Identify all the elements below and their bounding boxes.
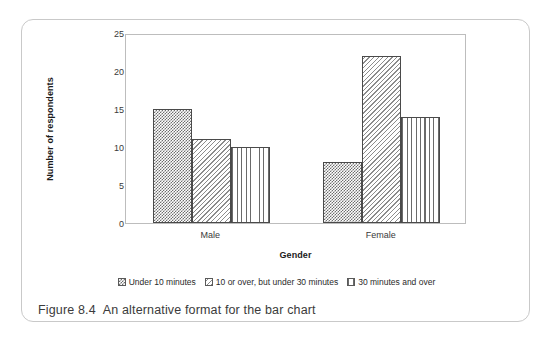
bar (231, 147, 270, 223)
bar (323, 162, 362, 223)
chart-legend: Under 10 minutes10 or over, but under 30… (22, 278, 531, 287)
bar (153, 109, 192, 223)
bar-chart: Number of respondents 0510152025 MaleFem… (22, 20, 531, 282)
x-axis-tick-labels: MaleFemale (125, 230, 466, 244)
y-axis-tick-labels: 0510152025 (100, 34, 124, 224)
y-tick-label: 20 (100, 68, 124, 77)
y-tick-label: 5 (100, 182, 124, 191)
y-axis-title: Number of respondents (45, 49, 55, 209)
x-tick-label: Female (336, 230, 426, 240)
plot-inner (126, 35, 465, 223)
legend-item: Under 10 minutes (118, 278, 196, 287)
legend-item-label: 30 minutes and over (358, 278, 435, 287)
y-tick-label: 25 (100, 30, 124, 39)
x-tick-label: Male (165, 230, 255, 240)
legend-item-label: Under 10 minutes (129, 278, 196, 287)
y-tick-label: 10 (100, 144, 124, 153)
bar (192, 139, 231, 223)
plot-area (125, 34, 466, 224)
legend-item-label: 10 or over, but under 30 minutes (216, 278, 338, 287)
bar (401, 117, 440, 223)
figure-card: Number of respondents 0510152025 MaleFem… (21, 19, 530, 322)
checker-swatch (118, 278, 126, 286)
figure-caption-text: An alternative format for the bar chart (103, 303, 316, 317)
y-tick-label: 15 (100, 106, 124, 115)
legend-item: 30 minutes and over (347, 278, 435, 287)
bar (362, 56, 401, 223)
diagonal-swatch (205, 278, 213, 286)
figure-caption-number: Figure 8.4 (38, 303, 96, 317)
y-tick-label: 0 (100, 220, 124, 229)
figure-caption: Figure 8.4An alternative format for the … (38, 303, 518, 317)
vertical-swatch (347, 278, 355, 286)
x-axis-title: Gender (125, 250, 466, 260)
legend-item: 10 or over, but under 30 minutes (205, 278, 338, 287)
